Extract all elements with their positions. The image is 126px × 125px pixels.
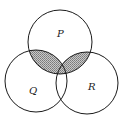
label-q: Q bbox=[29, 85, 37, 96]
circle-r bbox=[56, 52, 118, 114]
venn-diagram: P Q R bbox=[0, 0, 126, 125]
label-r: R bbox=[87, 81, 96, 92]
label-p: P bbox=[56, 28, 64, 39]
